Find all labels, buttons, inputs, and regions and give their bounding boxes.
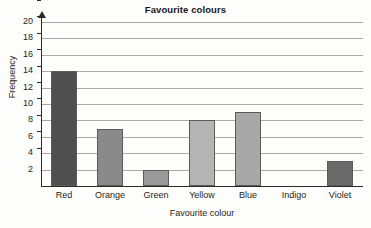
bar-chart-figure: Favourite colours Frequency 246810121416…	[0, 0, 371, 228]
x-tick-label-yellow: Yellow	[179, 190, 225, 200]
y-tick-label: 10	[7, 99, 33, 108]
x-tick-label-red: Red	[41, 190, 87, 200]
gridline	[41, 71, 363, 72]
bar-orange	[97, 129, 123, 186]
y-tick-label: 16	[7, 50, 33, 59]
gridline	[41, 55, 363, 56]
gridline	[41, 104, 363, 105]
bar-red	[51, 71, 77, 186]
gridline	[41, 88, 363, 89]
bar-green	[143, 170, 169, 186]
x-tick-label-indigo: Indigo	[271, 190, 317, 200]
x-tick-label-orange: Orange	[87, 190, 133, 200]
bar-violet	[327, 161, 353, 186]
y-tick-label: 6	[7, 132, 33, 141]
y-tick-label: 12	[7, 83, 33, 92]
x-axis-line	[41, 186, 363, 187]
y-tick-label: 8	[7, 115, 33, 124]
x-tick-label-blue: Blue	[225, 190, 271, 200]
bar-blue	[235, 112, 261, 186]
y-tick-label: 20	[7, 17, 33, 26]
x-tick-label-green: Green	[133, 190, 179, 200]
plot-area	[41, 22, 363, 186]
x-tick-label-violet: Violet	[317, 190, 363, 200]
chart-title: Favourite colours	[0, 4, 371, 15]
gridline	[41, 22, 363, 23]
y-tick-mark	[37, 0, 41, 1]
gridline	[41, 38, 363, 39]
y-tick-label: 4	[7, 148, 33, 157]
y-axis-arrow-icon	[38, 11, 46, 18]
y-axis-line	[41, 17, 42, 187]
y-tick-label: 14	[7, 66, 33, 75]
x-axis-title: Favourite colour	[41, 208, 363, 218]
bar-yellow	[189, 120, 215, 186]
y-tick-label: 18	[7, 33, 33, 42]
y-tick-label: 2	[7, 165, 33, 174]
